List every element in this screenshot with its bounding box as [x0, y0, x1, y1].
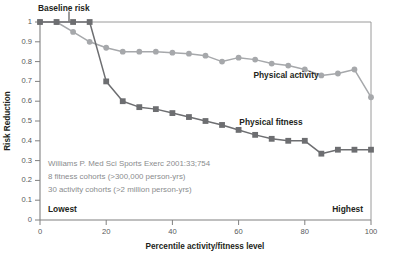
- data-point: [186, 51, 192, 57]
- data-point: [236, 127, 242, 133]
- data-point: [120, 49, 126, 55]
- series-line: [40, 22, 371, 97]
- source-line: Williams P. Med Sci Sports Exerc 2001:33…: [48, 159, 211, 168]
- data-point: [186, 114, 192, 120]
- x-axis-tick-labels: 0 20 40 60 80 100: [38, 227, 377, 236]
- source-line: 8 fitness cohorts (>300,000 person-yrs): [48, 172, 186, 181]
- data-point: [203, 118, 209, 124]
- data-point: [352, 147, 358, 153]
- y-tick-label: 0.5: [21, 116, 32, 125]
- x-axis-title: Percentile activity/fitness level: [146, 242, 265, 251]
- data-point: [219, 122, 225, 128]
- y-axis-ticks: [35, 22, 40, 220]
- source-line: 30 activity cohorts (>2 million person-y…: [48, 185, 192, 194]
- y-tick-label: 0: [28, 215, 32, 224]
- lowest-label: Lowest: [48, 204, 77, 214]
- data-point: [70, 29, 76, 35]
- data-point: [136, 104, 142, 110]
- y-tick-label: 0.1: [21, 195, 32, 204]
- series-activity: [37, 19, 374, 100]
- chart-svg: Baseline risk 1 0.9 0.8 0.7 0.6 0.5 0.4 …: [0, 0, 408, 259]
- data-point: [368, 147, 374, 153]
- x-tick-label: 60: [234, 227, 242, 236]
- data-point: [219, 59, 225, 65]
- series-label-fitness: Physical fitness: [239, 117, 303, 127]
- data-point: [120, 98, 126, 104]
- x-axis-ticks: [40, 220, 371, 225]
- source-citation: Williams P. Med Sci Sports Exerc 2001:33…: [48, 159, 211, 194]
- data-point: [153, 106, 159, 112]
- y-tick-label: 1: [28, 17, 32, 26]
- x-tick-label: 80: [301, 227, 309, 236]
- data-point: [236, 55, 242, 61]
- data-point: [54, 19, 60, 25]
- data-point: [335, 147, 341, 153]
- x-tick-label: 40: [168, 227, 176, 236]
- data-point: [87, 19, 93, 25]
- risk-reduction-chart: Baseline risk 1 0.9 0.8 0.7 0.6 0.5 0.4 …: [0, 0, 408, 259]
- baseline-risk-label: Baseline risk: [38, 3, 90, 13]
- data-point: [37, 19, 43, 25]
- series-layer: [37, 19, 374, 156]
- x-tick-label: 20: [102, 227, 110, 236]
- data-point: [318, 73, 324, 79]
- y-axis-title: Risk Reduction: [3, 91, 12, 151]
- data-point: [103, 79, 109, 85]
- data-point: [170, 110, 176, 116]
- data-point: [103, 45, 109, 51]
- data-point: [70, 19, 76, 25]
- data-point: [318, 151, 324, 157]
- y-tick-label: 0.8: [21, 57, 32, 66]
- y-tick-label: 0.3: [21, 156, 32, 165]
- data-point: [352, 67, 358, 73]
- data-point: [87, 39, 93, 45]
- data-point: [368, 94, 374, 100]
- x-tick-label: 100: [365, 227, 378, 236]
- y-tick-label: 0.6: [21, 96, 32, 105]
- data-point: [203, 53, 209, 59]
- y-axis-tick-labels: 1 0.9 0.8 0.7 0.6 0.5 0.4 0.3 0.2 0.1 0: [21, 17, 32, 224]
- data-point: [269, 136, 275, 142]
- data-point: [252, 132, 258, 138]
- data-point: [170, 50, 176, 56]
- data-point: [269, 61, 275, 67]
- y-tick-label: 0.2: [21, 175, 32, 184]
- y-tick-label: 0.4: [21, 136, 32, 145]
- data-point: [136, 49, 142, 55]
- data-point: [285, 63, 291, 69]
- data-point: [252, 57, 258, 63]
- y-tick-label: 0.7: [21, 76, 32, 85]
- highest-label: Highest: [332, 204, 363, 214]
- x-tick-label: 0: [38, 227, 42, 236]
- data-point: [285, 138, 291, 144]
- data-point: [153, 49, 159, 55]
- data-point: [302, 138, 308, 144]
- series-label-activity: Physical activity: [253, 70, 319, 80]
- y-tick-label: 0.9: [21, 37, 32, 46]
- data-point: [335, 71, 341, 77]
